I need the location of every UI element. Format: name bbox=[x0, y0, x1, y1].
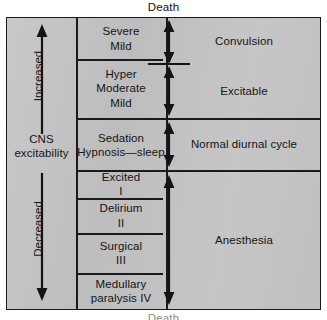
stage-cell-hyper-moderate-mild: Hyper Moderate Mild bbox=[76, 59, 166, 118]
state-label-normal-diurnal-cycle: Normal diurnal cycle bbox=[166, 134, 322, 154]
stage-line: Mild bbox=[110, 39, 132, 54]
stage-line: Excited bbox=[102, 170, 140, 185]
stage-line: Sedation bbox=[98, 131, 144, 146]
state-text: Normal diurnal cycle bbox=[191, 137, 297, 152]
diagram-page: Death Death Increased CNS excitability bbox=[0, 0, 327, 320]
stage-line: Mild bbox=[110, 96, 132, 111]
stage-line: Medullary bbox=[96, 277, 147, 292]
stage-line: II bbox=[118, 216, 125, 231]
axis-title-cns-excitability: CNS excitability bbox=[7, 130, 76, 162]
axis-title-line2: excitability bbox=[14, 146, 68, 161]
state-text: Excitable bbox=[220, 84, 268, 99]
stage-line: I bbox=[119, 184, 122, 199]
stage-line: III bbox=[116, 253, 126, 268]
state-text: Convulsion bbox=[215, 34, 273, 49]
stage-cell-severe-mild: Severe Mild bbox=[76, 18, 166, 59]
stage-line: Delirium bbox=[100, 201, 143, 216]
stage-cell-medullary-paralysis-iv: Medullary paralysis IV bbox=[73, 273, 169, 309]
stage-cell-delirium-ii: Delirium II bbox=[76, 198, 166, 233]
stage-line: Severe bbox=[102, 24, 139, 39]
state-label-convulsion: Convulsion bbox=[166, 31, 322, 51]
stage-line: Surgical bbox=[100, 239, 142, 254]
axis-label-increased: Increased bbox=[32, 36, 44, 116]
state-label-anesthesia: Anesthesia bbox=[166, 230, 322, 250]
bottom-caption-death: Death bbox=[0, 312, 327, 320]
state-label-excitable: Excitable bbox=[166, 81, 322, 101]
stage-line: paralysis IV bbox=[91, 291, 152, 306]
stage-cell-excited-i: Excited I bbox=[76, 170, 166, 198]
convulsion-excitable-tick bbox=[148, 63, 190, 65]
stage-line: Hypnosis—sleep bbox=[77, 145, 165, 160]
stage-cell-surgical-iii: Surgical III bbox=[76, 233, 166, 273]
stage-line: Moderate bbox=[96, 81, 145, 96]
top-caption-death: Death bbox=[0, 1, 327, 13]
stage-cell-sedation-hypnosis: Sedation Hypnosis—sleep bbox=[67, 120, 175, 170]
axis-title-line1: CNS bbox=[29, 132, 54, 147]
chart-frame: Increased CNS excitability Decreased Sev… bbox=[6, 17, 321, 310]
axis-label-decreased: Decreased bbox=[32, 189, 44, 269]
stage-line: Hyper bbox=[105, 67, 136, 82]
state-text: Anesthesia bbox=[215, 233, 273, 248]
